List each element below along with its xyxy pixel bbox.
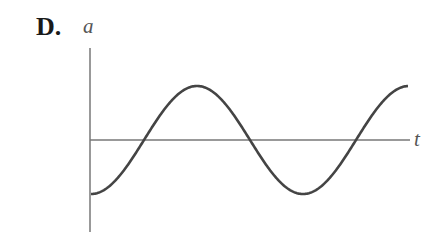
graph xyxy=(0,0,440,249)
